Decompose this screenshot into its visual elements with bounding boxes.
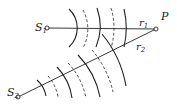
interference-diagram: S1 S2 P r1 r2 xyxy=(0,0,177,108)
label-r1: r1 xyxy=(139,17,148,30)
ray-r1 xyxy=(47,28,156,29)
point-p xyxy=(154,27,158,31)
label-r2: r2 xyxy=(136,41,146,54)
label-s2: S2 xyxy=(7,86,20,100)
s1-wavefronts xyxy=(69,8,126,48)
label-s1: S1 xyxy=(35,21,47,35)
label-p: P xyxy=(160,10,169,23)
ray-r2 xyxy=(18,29,156,97)
